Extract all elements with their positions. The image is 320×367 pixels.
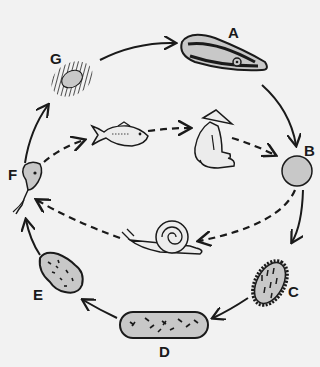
adult-worm-icon (181, 35, 267, 71)
diagram-canvas (0, 0, 320, 367)
egg-icon (282, 156, 312, 186)
stage-label-f: F (8, 166, 17, 183)
human-host-icon (195, 110, 235, 168)
snail-host-icon (122, 221, 202, 254)
stage-label-e: E (33, 286, 43, 303)
stage-label-c: C (288, 283, 299, 300)
fish-host-icon (92, 122, 148, 146)
stage-label-d: D (159, 343, 170, 360)
stage-label-g: G (50, 50, 62, 67)
cercaria-icon (13, 162, 42, 214)
redia-icon (40, 253, 83, 293)
sporocyst-icon (120, 312, 208, 338)
stage-label-b: B (304, 142, 315, 159)
life-cycle-diagram: A B C D E F G (0, 0, 320, 367)
stage-label-a: A (228, 24, 239, 41)
